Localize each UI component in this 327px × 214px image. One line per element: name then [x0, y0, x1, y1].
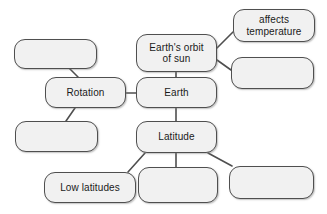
concept-node-n-earths-orbit[interactable]: Earth's orbit of sun	[136, 34, 217, 72]
concept-node-label	[174, 185, 182, 186]
concept-node-n-affects-temperature[interactable]: affects temperature	[233, 9, 315, 42]
concept-node-n-mid-left-blank[interactable]	[15, 121, 98, 152]
concept-node-label: Earth's orbit of sun	[145, 42, 207, 65]
concept-node-n-top-left-blank[interactable]	[14, 39, 97, 69]
concept-node-label: Latitude	[154, 131, 198, 143]
concept-node-n-bottom-right-blank[interactable]	[229, 166, 314, 199]
concept-node-n-right-blank[interactable]	[231, 57, 314, 89]
connector-n-latitude-to-n-bottom-right-blank	[208, 153, 232, 166]
concept-node-label	[53, 136, 61, 137]
concept-node-label: Low latitudes	[56, 182, 124, 194]
concept-node-label: Rotation	[62, 87, 108, 99]
concept-node-n-rotation[interactable]: Rotation	[45, 77, 126, 108]
concept-node-label	[268, 182, 276, 183]
connector-n-earths-orbit-to-n-affects-temperature	[217, 32, 233, 48]
concept-map-diagram: Earth's orbit of sunaffects temperatureR…	[0, 0, 327, 214]
concept-node-n-bottom-mid-blank[interactable]	[138, 167, 218, 203]
concept-node-n-earth[interactable]: Earth	[136, 77, 217, 108]
concept-node-label	[269, 73, 277, 74]
concept-node-n-latitude[interactable]: Latitude	[136, 121, 217, 153]
concept-node-label: affects temperature	[242, 14, 305, 37]
concept-node-label	[52, 54, 60, 55]
connector-n-rotation-to-n-mid-left-blank	[66, 108, 75, 121]
concept-node-label: Earth	[160, 87, 192, 99]
concept-node-n-low-latitudes[interactable]: Low latitudes	[44, 172, 136, 203]
connector-n-earths-orbit-to-n-right-blank	[217, 60, 231, 70]
connector-n-top-left-blank-to-n-rotation	[70, 69, 78, 77]
